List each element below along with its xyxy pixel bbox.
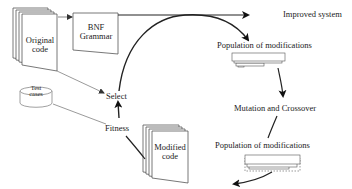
improved-system-label: Improved system	[283, 10, 342, 19]
test-cases-label: Test cases	[22, 85, 50, 97]
population-top-stack-icon	[232, 53, 285, 67]
select-label: Select	[106, 92, 127, 101]
original-code-line2: code	[20, 45, 60, 54]
bnf-grammar-line2: Grammar	[73, 32, 119, 41]
test-cases-line2: cases	[22, 91, 50, 97]
population-bottom-label: Population of modifications	[215, 141, 310, 150]
original-code-label: Original code	[20, 36, 60, 54]
bnf-grammar-label: BNF Grammar	[73, 23, 119, 41]
mutation-crossover-label: Mutation and Crossover	[234, 104, 316, 113]
population-bottom-stack-icon	[245, 155, 300, 171]
modified-code-line2: code	[150, 152, 190, 161]
modified-code-label: Modified code	[150, 143, 190, 161]
population-top-label: Population of modifications	[217, 41, 312, 50]
main-loop-curve	[119, 15, 248, 91]
fitness-label: Fitness	[105, 124, 129, 133]
